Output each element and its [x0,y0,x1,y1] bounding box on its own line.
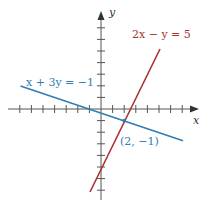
y-axis [97,11,105,200]
y-axis-label: y [108,6,116,19]
x-axis-arrow-icon [190,106,199,113]
coordinate-graph: y x x + 3y = −1 2x − y = 5 (2, −1) [0,0,205,204]
line1-label: x + 3y = −1 [26,76,94,89]
intersection-label: (2, −1) [120,135,159,148]
x-axis-label: x [193,114,200,127]
intersection-point [122,119,126,123]
line2-label: 2x − y = 5 [132,28,191,41]
x-axis [8,105,199,113]
y-axis-arrow-icon [98,11,105,20]
